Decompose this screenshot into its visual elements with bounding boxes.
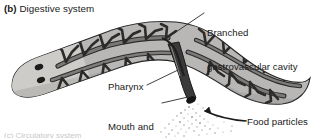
bottom-bleed-text: (c) Circulatory system	[4, 131, 81, 138]
leader-pharynx	[147, 70, 178, 85]
label-branched-gastrovascular-cavity: Branched gastrovascular cavity	[207, 5, 298, 95]
label-mouth-anus-line1: Mouth and	[108, 121, 154, 132]
label-gastrovascular-line1: Branched	[207, 27, 298, 38]
food-arrow-head	[205, 107, 211, 114]
panel-tag: (b)	[4, 3, 17, 14]
label-pharynx: Pharynx	[108, 81, 144, 92]
page-title: (b) Digestive system	[4, 3, 94, 14]
label-gastrovascular-line2: gastrovascular cavity	[207, 61, 298, 72]
food-particle-spray	[160, 103, 232, 137]
label-mouth-and-anus: Mouth and anus	[108, 99, 154, 138]
label-food-particles: Food particles	[247, 116, 308, 127]
panel-title-label: Digestive system	[19, 3, 94, 14]
food-arrow-shaft	[205, 111, 246, 121]
figure-digestive-system: (b) Digestive system Branched gastrovasc…	[0, 0, 316, 138]
leader-mouth-anus	[162, 97, 188, 103]
leader-food-particles	[205, 107, 246, 121]
